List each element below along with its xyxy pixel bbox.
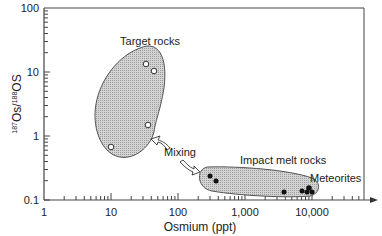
scatter-chart: 1 10 100 1,000 10,000 0.1 1 10 100 Osmiu… [0, 0, 382, 236]
y-label-sup: 187 [11, 122, 18, 134]
impact-melt-label: Impact melt rocks [240, 154, 327, 166]
x-tick-label: 10 [105, 206, 117, 218]
arrow-down-icon [180, 160, 200, 175]
data-point [145, 122, 151, 128]
y-label-sup: 188 [11, 92, 18, 104]
data-point [214, 179, 219, 184]
y-tick-label: 0.1 [24, 194, 39, 206]
y-axis-label: 187Os/188OS [10, 74, 24, 133]
data-point [305, 190, 310, 195]
mixing-label: Mixing [164, 146, 196, 158]
data-point [208, 174, 213, 179]
x-axis-label: Osmium (ppt) [164, 220, 237, 234]
x-tick-label: 1,000 [231, 206, 259, 218]
y-tick-label: 10 [27, 66, 39, 78]
data-point [151, 68, 157, 74]
x-tick-label: 10,000 [295, 206, 329, 218]
target-rocks-label: Target rocks [120, 35, 180, 47]
data-point [143, 61, 149, 67]
x-tick-labels: 1 10 100 1,000 10,000 [41, 206, 329, 218]
y-tick-label: 1 [33, 130, 39, 142]
x-axis-arrow-icon [370, 197, 378, 203]
y-tick-label: 100 [21, 2, 39, 14]
x-tick-label: 100 [169, 206, 187, 218]
data-point [282, 190, 287, 195]
data-point [310, 190, 315, 195]
data-point [108, 144, 114, 150]
data-point [300, 189, 305, 194]
x-tick-label: 1 [41, 206, 47, 218]
y-label-text: Os/ [10, 103, 24, 122]
meteorites-label: Meteorites [310, 172, 362, 184]
y-axis-ticks [44, 11, 50, 200]
y-label-text: OS [10, 74, 24, 91]
